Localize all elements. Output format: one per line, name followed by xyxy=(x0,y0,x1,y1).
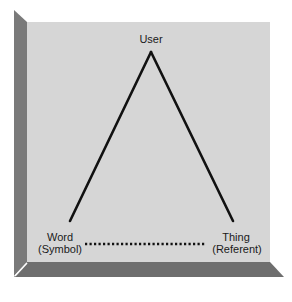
diagram-figure: User Word (Symbol) Thing (Referent) xyxy=(0,0,292,302)
node-word-label: Word xyxy=(35,231,85,243)
node-symbol-sublabel: (Symbol) xyxy=(33,243,87,255)
panel-bottom-bevel xyxy=(14,262,284,277)
node-thing-label: Thing xyxy=(211,231,261,243)
node-referent-sublabel: (Referent) xyxy=(207,243,267,255)
node-user-label: User xyxy=(130,33,172,45)
triangle-diagram-graphic xyxy=(0,0,292,302)
panel-left-bevel xyxy=(14,10,27,276)
